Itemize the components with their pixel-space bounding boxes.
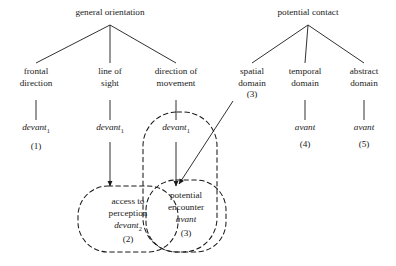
term-devant1-frontal-subscript: 1: [47, 127, 50, 134]
left-tree-root-label: general orientation: [75, 7, 144, 19]
term-devant1-frontal-number: (1): [22, 141, 50, 153]
grouping-access-to-perception-number: (2): [109, 234, 148, 246]
right-tree-root-label: potential contact: [278, 7, 339, 19]
grouping-access-to-perception-line1: access to: [109, 196, 148, 208]
term-devant1-movement-word: devant: [162, 122, 187, 132]
branch-right-to-abstract-domain: [308, 25, 364, 63]
node-spatial-domain-number: (3): [238, 89, 266, 101]
term-devant1-sight-word: devant: [96, 122, 121, 132]
term-avant-temporal: avant (4): [295, 122, 315, 150]
branch-right-to-spatial-domain: [252, 25, 308, 63]
branch-right-to-temporal-domain: [305, 25, 308, 63]
term-devant1-sight: devant1: [96, 122, 124, 136]
term-devant1-movement: devant1: [162, 122, 190, 136]
node-temporal-domain-line2: domain: [289, 78, 322, 90]
grouping-potential-encounter-line2: encounter: [168, 202, 204, 214]
linguistic-tree-diagram: general orientation potential contact fr…: [0, 0, 396, 266]
node-direction-of-movement-line1: direction of: [155, 66, 198, 78]
left-tree-branches: [36, 25, 176, 63]
node-line-of-sight-line1: line of: [98, 66, 122, 78]
node-abstract-domain: abstract domain: [350, 66, 379, 89]
node-temporal-domain: temporal domain: [289, 66, 322, 89]
grouping-access-to-perception-term: devant: [114, 220, 139, 230]
term-devant1-frontal: devant1 (1): [22, 122, 50, 153]
node-frontal-direction-line1: frontal: [20, 66, 53, 78]
term-devant1-frontal-word: devant: [22, 122, 47, 132]
term-avant-temporal-word: avant: [295, 122, 315, 132]
node-abstract-domain-line2: domain: [350, 78, 379, 90]
term-avant-abstract-word: avant: [354, 122, 374, 132]
branch-left-to-frontal-direction: [36, 25, 110, 63]
branch-left-to-direction-of-movement: [110, 25, 176, 63]
grouping-potential-encounter-line1: potential: [168, 190, 204, 202]
right-tree-branches: [252, 25, 364, 63]
term-avant-temporal-number: (4): [295, 139, 315, 151]
node-direction-of-movement-line2: movement: [155, 78, 198, 90]
grouping-access-to-perception: access to perception devant2 (2): [109, 196, 148, 246]
grouping-potential-encounter-term: avant: [176, 214, 196, 224]
node-frontal-direction: frontal direction: [20, 66, 53, 89]
node-spatial-domain-line1: spatial: [238, 66, 266, 78]
grouping-potential-encounter: potential encounter avant (3): [168, 190, 204, 240]
term-devant1-sight-subscript: 1: [121, 127, 124, 134]
grouping-access-to-perception-line2: perception: [109, 208, 148, 220]
arrow-spatial-domain-to-potential-encounter: [179, 101, 233, 184]
grouping-arrows: [110, 101, 233, 186]
node-abstract-domain-line1: abstract: [350, 66, 379, 78]
node-line-of-sight: line of sight: [98, 66, 122, 89]
node-direction-of-movement: direction of movement: [155, 66, 198, 89]
node-line-of-sight-line2: sight: [98, 78, 122, 90]
term-devant1-movement-subscript: 1: [187, 127, 190, 134]
grouping-access-to-perception-subscript: 2: [139, 224, 142, 231]
node-temporal-domain-line1: temporal: [289, 66, 322, 78]
grouping-potential-encounter-number: (3): [168, 228, 204, 240]
node-frontal-direction-line2: direction: [20, 78, 53, 90]
term-avant-abstract-number: (5): [354, 139, 374, 151]
term-avant-abstract: avant (5): [354, 122, 374, 150]
node-spatial-domain-line2: domain: [238, 78, 266, 90]
node-spatial-domain: spatial domain (3): [238, 66, 266, 101]
